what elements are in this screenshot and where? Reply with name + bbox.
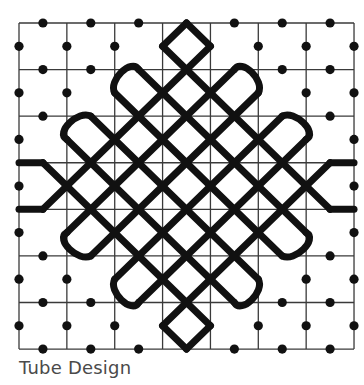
grid-dot <box>278 298 287 307</box>
tube-design-diagram <box>0 0 364 355</box>
grid-dot <box>86 65 95 74</box>
grid-dot <box>14 228 23 237</box>
grid-dot <box>62 88 71 97</box>
grid-dot <box>302 321 311 330</box>
grid-dot <box>349 275 358 284</box>
loop-lower-left-1 <box>63 233 90 257</box>
top-diamond-right <box>187 23 211 46</box>
grid-dot <box>302 275 311 284</box>
grid-dot <box>325 298 334 307</box>
grid-dot <box>86 344 95 353</box>
grid-dot <box>110 321 119 330</box>
grid-dot <box>38 251 47 260</box>
grid-dot <box>349 181 358 190</box>
grid-dot <box>38 344 47 353</box>
grid-dot <box>278 65 287 74</box>
bottom-diamond-left <box>163 326 187 349</box>
grid-dot <box>14 42 23 51</box>
tube-pattern <box>19 23 354 349</box>
bottom-diamond-right <box>187 326 211 349</box>
grid-dot <box>349 42 358 51</box>
grid-dot <box>254 42 263 51</box>
grid-dot <box>14 88 23 97</box>
backslash-m1 <box>91 116 259 279</box>
grid-dot <box>38 112 47 121</box>
grid-dot <box>349 135 358 144</box>
grid-dot <box>325 18 334 27</box>
backslash-1 <box>115 93 283 256</box>
loop-upper-left-2 <box>63 115 90 139</box>
grid-dot <box>302 88 311 97</box>
grid-dot <box>38 298 47 307</box>
grid-dot <box>14 181 23 190</box>
grid-dot <box>230 18 239 27</box>
top-diamond-left <box>163 23 187 46</box>
grid-dot <box>325 344 334 353</box>
grid-dot <box>62 42 71 51</box>
grid-dot <box>349 321 358 330</box>
grid-dot <box>278 18 287 27</box>
grid-dot <box>14 275 23 284</box>
grid-dot <box>86 18 95 27</box>
grid-dot <box>325 112 334 121</box>
grid-dot <box>349 88 358 97</box>
loop-lower-right-2 <box>282 233 309 257</box>
grid-dot <box>14 321 23 330</box>
grid-dot <box>38 65 47 74</box>
backslash-3 <box>139 70 307 233</box>
grid-dot <box>38 18 47 27</box>
grid-dot <box>134 344 143 353</box>
grid-dot <box>254 321 263 330</box>
backslash-m3 <box>67 139 235 302</box>
grid-dot <box>278 344 287 353</box>
grid-dot <box>62 275 71 284</box>
loop-upper-right-2 <box>282 115 309 139</box>
grid-dot <box>14 135 23 144</box>
grid-dot <box>302 42 311 51</box>
grid-dot <box>230 344 239 353</box>
grid-dot <box>325 251 334 260</box>
grid-dot <box>134 18 143 27</box>
grid-dot <box>86 298 95 307</box>
grid-dot <box>110 42 119 51</box>
figure-caption: Tube Design <box>19 357 131 378</box>
grid-dot <box>349 228 358 237</box>
grid-dot <box>325 65 334 74</box>
grid-dot <box>62 321 71 330</box>
